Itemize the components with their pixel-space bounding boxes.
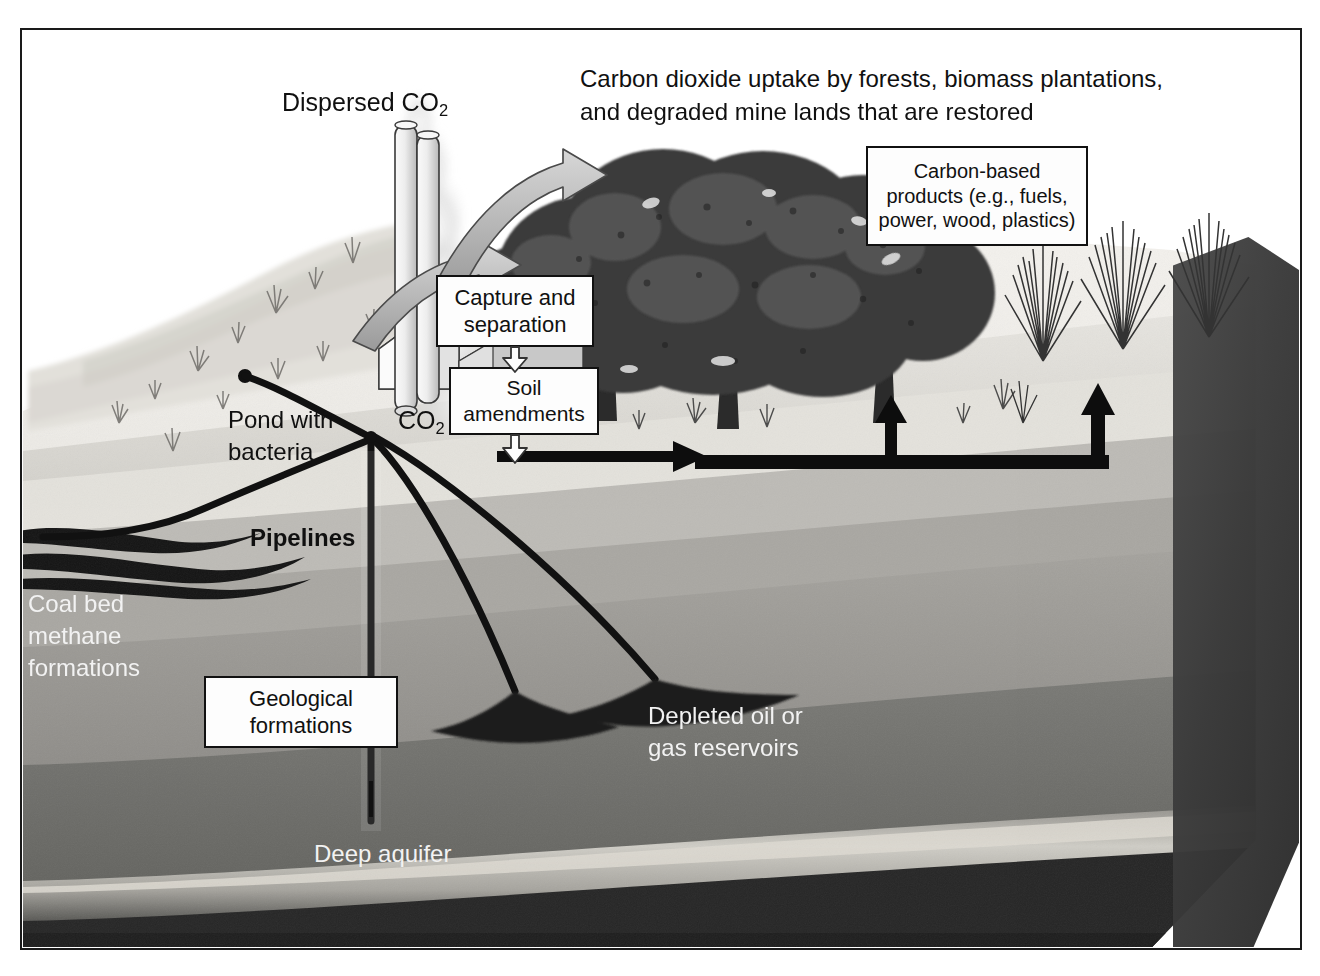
wellhead-junction <box>365 431 377 443</box>
carbon-based-products-box[interactable]: Carbon-based products (e.g., fuels, powe… <box>866 146 1088 246</box>
uptake-caption-line1: Carbon dioxide uptake by forests, biomas… <box>580 63 1163 94</box>
pipelines-label: Pipelines <box>250 522 355 553</box>
deep-aquifer-label: Deep aquifer <box>314 838 451 869</box>
scene-artwork <box>23 31 1299 947</box>
well-shaft-glow <box>361 451 381 831</box>
soil-line2: amendments <box>463 401 584 427</box>
dispersed-co2-label: Dispersed CO2 <box>282 86 448 121</box>
carbon-products-line2: products (e.g., fuels, <box>886 184 1067 209</box>
coal-bed-line2: methane <box>28 620 121 651</box>
figure-canvas: Dispersed CO2 Carbon dioxide uptake by f… <box>0 0 1320 976</box>
soil-amendments-box[interactable]: Soil amendments <box>449 367 599 435</box>
coal-bed-line1: Coal bed <box>28 588 124 619</box>
depleted-label-line2: gas reservoirs <box>648 732 799 763</box>
earth-block-3d <box>23 31 1299 947</box>
pond-label-line2: bacteria <box>228 436 313 467</box>
coal-bed-line3: formations <box>28 652 140 683</box>
depleted-label-line1: Depleted oil or <box>648 700 803 731</box>
co2-stack-label: CO2 <box>398 404 445 439</box>
geological-line2: formations <box>250 712 353 739</box>
co2-subscript: 2 <box>439 101 448 119</box>
pipeline-network <box>43 437 655 821</box>
carbon-products-line1: Carbon-based <box>914 159 1041 184</box>
pond-label-line1: Pond with <box>228 404 333 435</box>
uptake-caption-line2: and degraded mine lands that are restore… <box>580 96 1034 127</box>
capture-and-separation-box[interactable]: Capture and separation <box>436 275 594 347</box>
co2-stack-subscript: 2 <box>436 419 445 437</box>
geological-formations-box[interactable]: Geological formations <box>204 676 398 748</box>
capture-line2: separation <box>464 311 567 338</box>
carbon-products-line3: power, wood, plastics) <box>879 208 1076 233</box>
capture-line1: Capture and <box>454 284 575 311</box>
geological-line1: Geological <box>249 685 353 712</box>
soil-line1: Soil <box>506 375 541 401</box>
